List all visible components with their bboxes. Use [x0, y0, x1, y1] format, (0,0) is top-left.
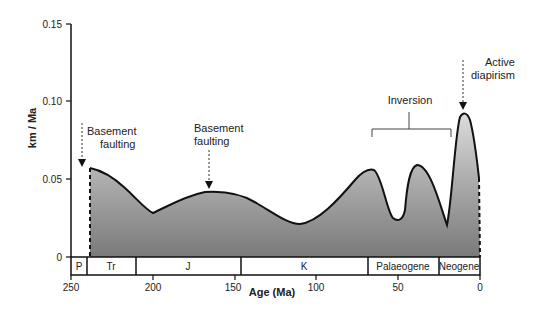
annotation-basement-faulting-1b: faulting: [100, 138, 135, 150]
period-label-jurassic: J: [186, 261, 191, 272]
x-tick-label: 200: [145, 282, 162, 293]
y-axis-label: km / Ma: [26, 107, 38, 148]
period-label-cretaceous: K: [301, 261, 308, 272]
y-tick-label: 0.15: [43, 19, 63, 30]
y-tick-label: 0: [56, 252, 62, 263]
arrowhead-icon: [459, 102, 467, 110]
x-tick-label: 0: [477, 282, 483, 293]
x-tick-label: 50: [392, 282, 404, 293]
subsidence-rate-chart: 0.15 0.10 0.05 0 km / Ma P Tr J K Palaeo…: [0, 0, 534, 315]
x-tick-label: 100: [308, 282, 325, 293]
arrowhead-icon: [205, 181, 213, 189]
period-label-neogene: Neogene: [439, 261, 480, 272]
period-label-permian: P: [76, 261, 83, 272]
annotation-inversion: Inversion: [388, 94, 433, 106]
annotation-active-diapirism: Active: [485, 56, 515, 68]
y-tick-label: 0.10: [43, 96, 63, 107]
annotation-active-diapirism-b: diapirism: [471, 69, 515, 81]
rate-area: [90, 114, 480, 257]
annotation-basement-faulting-2b: faulting: [194, 135, 229, 147]
x-axis-label: Age (Ma): [249, 286, 296, 298]
period-label-triassic: Tr: [106, 261, 116, 272]
y-tick-label: 0.05: [43, 174, 63, 185]
arrowhead-icon: [78, 159, 86, 167]
period-label-palaeogene: Palaeogene: [376, 261, 430, 272]
annotation-basement-faulting-1: Basement: [87, 125, 137, 137]
annotation-basement-faulting-2: Basement: [194, 122, 244, 134]
x-tick-label: 150: [225, 282, 242, 293]
x-tick-label: 250: [63, 282, 80, 293]
inversion-bracket: [372, 112, 451, 137]
